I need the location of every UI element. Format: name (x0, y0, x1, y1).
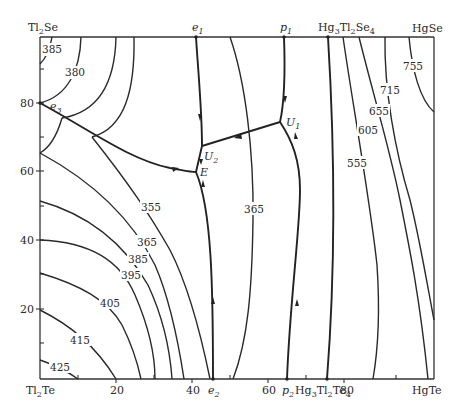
point-label-e2: e2 (208, 384, 220, 399)
y-tick-20: 20 (20, 303, 34, 316)
x-tick-60: 60 (262, 384, 276, 397)
isotherm-label: 385 (128, 253, 148, 265)
isotherm-label: 555 (347, 157, 367, 169)
x-tick-20: 20 (110, 384, 124, 397)
plot-frame (40, 37, 434, 379)
isotherm-label: 395 (121, 269, 141, 281)
isotherm-label: 355 (141, 201, 161, 213)
compound-label-hg3tl2te4: Hg3Tl2Te4 (295, 384, 351, 399)
isotherm-label: 385 (42, 43, 62, 55)
isotherm-label: 425 (50, 361, 70, 373)
direction-arrows (172, 96, 299, 306)
isotherm-labels-right: 555 605 655 715 755 (346, 59, 424, 169)
corner-label-hgte: HgTe (412, 384, 442, 397)
isotherm-label: 755 (403, 60, 423, 72)
isotherm-label: 655 (369, 105, 389, 117)
phase-diagram: 80 60 40 20 20 40 60 80 Tl2Se HgSe Tl2Te… (0, 0, 458, 418)
isotherm-label: 405 (100, 297, 120, 309)
isotherms-right (320, 37, 434, 379)
point-markers (38, 35, 330, 381)
corner-label-tl2te: Tl2Te (26, 384, 55, 399)
y-tick-40: 40 (20, 234, 34, 247)
isotherm-center: 365 (230, 37, 265, 379)
monovariant-lines (40, 37, 333, 379)
compound-label-hg3tl2se4: Hg3Tl2Se4 (318, 21, 375, 36)
isotherm-label: 365 (244, 203, 264, 215)
isotherm-label: 380 (65, 66, 85, 78)
corner-label-tl2se: Tl2Se (28, 21, 58, 36)
y-tick-60: 60 (20, 165, 34, 178)
isotherm-label: 365 (137, 236, 157, 248)
isotherm-label: 415 (70, 334, 90, 346)
corner-label-hgse: HgSe (412, 22, 443, 35)
isotherms-left (40, 37, 210, 379)
isotherm-label: 715 (380, 84, 400, 96)
point-label-e1: e1 (192, 21, 204, 36)
x-tick-40: 40 (186, 384, 200, 397)
y-tick-80: 80 (20, 97, 34, 110)
point-label-u1: U1 (286, 116, 300, 131)
point-label-p1: p1 (280, 21, 292, 36)
point-label-u2: U2 (204, 150, 218, 165)
point-label-p2: p2 (282, 384, 294, 399)
isotherm-label: 605 (358, 124, 378, 136)
point-label-e: E (199, 166, 208, 179)
